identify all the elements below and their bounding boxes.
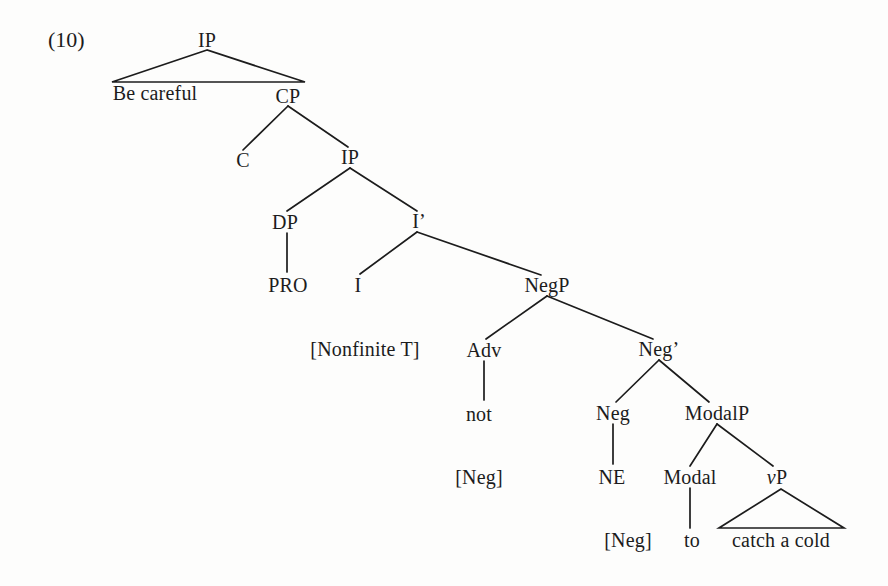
tree-node-negp: NegP xyxy=(524,275,569,295)
tree-node-i: I xyxy=(355,275,362,295)
tree-branch-cp-to-c xyxy=(243,106,288,150)
tree-node-be-careful: Be careful xyxy=(113,83,198,103)
tree-branch-negp-to-negbar xyxy=(547,296,653,339)
tree-node-neg-feature-ne: [Neg] xyxy=(604,530,652,550)
tree-node-ne: NE xyxy=(598,467,625,487)
tree-node-c: C xyxy=(236,150,250,170)
tree-branch-modalp-to-modal xyxy=(690,424,717,466)
tree-branch-negbar-to-modalp xyxy=(659,360,709,402)
tree-node-modal: Modal xyxy=(663,467,716,487)
tree-triangle-ip-root xyxy=(112,50,305,82)
tree-node-modalp: ModalP xyxy=(685,403,750,423)
tree-node-adv: Adv xyxy=(466,340,501,360)
tree-node-ip-root: IP xyxy=(198,30,216,50)
tree-branch-negp-to-adv xyxy=(486,296,547,339)
tree-node-neg-bar: Neg’ xyxy=(639,339,680,359)
tree-branch-ip-to-ibar xyxy=(350,168,417,211)
syntax-tree-figure: (10) IPBe carefulCPCIPDPI’PROINegP[Nonfi… xyxy=(0,0,888,586)
tree-node-nonfinite-t: [Nonfinite T] xyxy=(310,339,419,359)
triangles-group xyxy=(112,50,844,528)
tree-node-vp-suffix: P xyxy=(776,466,787,488)
tree-node-cp: CP xyxy=(276,86,301,106)
tree-branch-ip-to-dp xyxy=(287,168,350,211)
tree-branch-ibar-to-i xyxy=(360,232,417,274)
tree-node-to: to xyxy=(684,530,700,550)
tree-triangle-vp xyxy=(719,489,844,528)
tree-node-i-bar: I’ xyxy=(412,211,426,231)
branches-group xyxy=(243,106,773,528)
tree-node-ip-embedded: IP xyxy=(341,147,359,167)
tree-branch-ibar-to-negp xyxy=(417,232,541,275)
tree-node-not: not xyxy=(466,404,492,424)
tree-node-neg: Neg xyxy=(596,403,630,423)
tree-node-dp: DP xyxy=(272,212,298,232)
tree-branch-negbar-to-neg xyxy=(616,360,659,402)
tree-node-vp-italic-head: v xyxy=(767,466,776,488)
tree-node-neg-feature-adv: [Neg] xyxy=(455,467,503,487)
tree-branch-cp-to-ip xyxy=(288,106,348,147)
tree-node-catch-a-cold: catch a cold xyxy=(732,530,830,550)
tree-branch-modalp-to-vp xyxy=(717,424,773,466)
tree-node-vp: vP xyxy=(767,467,787,487)
tree-node-pro: PRO xyxy=(268,275,308,295)
